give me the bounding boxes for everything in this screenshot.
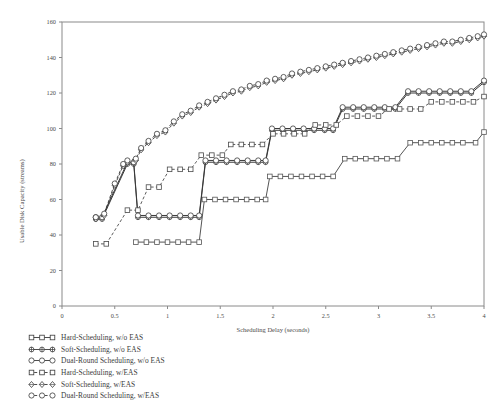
data-point-marker — [139, 145, 144, 150]
legend-item[interactable]: Dual-Round Scheduling, w/EAS — [27, 390, 287, 402]
data-point-marker — [39, 393, 44, 398]
data-point-marker — [299, 174, 304, 179]
data-point-marker — [315, 66, 320, 71]
data-point-marker — [301, 126, 306, 131]
data-point-marker — [220, 153, 225, 158]
series-line — [96, 97, 484, 244]
data-point-marker — [424, 42, 429, 47]
data-point-marker — [167, 167, 172, 172]
data-point-marker — [247, 83, 252, 88]
y-axis-tick-label: 20 — [50, 267, 56, 274]
data-point-marker — [345, 114, 350, 119]
data-point-marker — [213, 197, 218, 202]
data-point-marker — [450, 100, 455, 105]
data-point-marker — [244, 197, 249, 202]
data-point-marker — [188, 167, 193, 172]
data-point-marker — [50, 370, 55, 375]
data-point-marker — [222, 92, 227, 97]
data-point-marker — [186, 240, 191, 245]
data-point-marker — [263, 158, 268, 163]
legend-item-label: Dual-Round Scheduling, w/EAS — [57, 391, 159, 400]
data-point-marker — [197, 103, 202, 108]
data-point-marker — [471, 100, 476, 105]
data-point-marker — [93, 242, 98, 247]
data-point-marker — [268, 174, 273, 179]
data-point-marker — [271, 132, 276, 137]
y-axis-title: Usable Disk Capacity (streams) — [8, 95, 20, 245]
legend-item-label: Dual-Round Scheduling, w/o EAS — [57, 356, 165, 365]
data-point-marker — [290, 126, 295, 131]
x-axis-tick-label: 1 — [166, 312, 169, 319]
data-point-marker — [273, 76, 278, 81]
legend-item[interactable]: Soft-Scheduling, w/o EAS — [27, 344, 287, 356]
data-point-marker — [364, 156, 369, 161]
data-point-marker — [229, 142, 234, 147]
chart-series — [134, 130, 487, 245]
data-point-marker — [40, 370, 45, 375]
data-point-marker — [50, 335, 55, 340]
data-point-marker — [264, 78, 269, 83]
data-point-marker — [382, 51, 387, 56]
data-point-marker — [306, 67, 311, 72]
legend-item-label: Soft-Scheduling, w/o EAS — [57, 345, 141, 354]
data-point-marker — [387, 107, 392, 112]
data-point-marker — [278, 174, 283, 179]
data-point-marker — [385, 156, 390, 161]
data-point-marker — [374, 156, 379, 161]
legend-item[interactable]: Dual-Round Scheduling, w/o EAS — [27, 355, 287, 367]
legend-item-label: Soft-Scheduling, w/EAS — [57, 380, 135, 389]
data-point-marker — [203, 158, 208, 163]
data-point-marker — [440, 140, 445, 145]
data-point-marker — [399, 48, 404, 53]
data-point-marker — [395, 156, 400, 161]
data-point-marker — [351, 105, 356, 110]
data-point-marker — [178, 213, 183, 218]
data-point-marker — [146, 185, 151, 190]
data-point-marker — [348, 58, 353, 63]
data-point-marker — [50, 393, 55, 398]
data-point-marker — [437, 89, 442, 94]
legend-marker-diamond-icon — [27, 379, 57, 390]
chart-series — [93, 80, 486, 222]
data-point-marker — [39, 358, 44, 363]
data-point-marker — [134, 240, 139, 245]
data-point-marker — [40, 335, 45, 340]
data-point-marker — [146, 213, 151, 218]
data-point-marker — [289, 174, 294, 179]
y-axis-tick-label: 160 — [47, 18, 56, 25]
data-point-marker — [255, 197, 260, 202]
data-point-marker — [408, 140, 413, 145]
data-point-marker — [157, 185, 162, 190]
data-point-marker — [292, 132, 297, 137]
data-point-marker — [323, 64, 328, 69]
legend-item[interactable]: Hard-Scheduling, w/EAS — [27, 367, 287, 379]
data-point-marker — [213, 96, 218, 101]
y-axis-tick-label: 0 — [53, 302, 56, 309]
data-point-marker — [163, 128, 168, 133]
legend-marker-dot-plus-icon — [27, 344, 57, 355]
data-point-marker — [234, 197, 239, 202]
data-point-marker — [482, 130, 487, 135]
data-point-marker — [473, 140, 478, 145]
chart-series — [93, 94, 486, 246]
data-point-marker — [230, 89, 235, 94]
data-point-marker — [298, 69, 303, 74]
data-point-marker — [256, 158, 261, 163]
series-line — [136, 132, 484, 242]
x-axis-tick-label: 0.5 — [111, 312, 119, 319]
data-point-marker — [469, 89, 474, 94]
y-axis-title-text: Usable Disk Capacity (streams) — [18, 159, 25, 243]
data-point-marker — [374, 53, 379, 58]
data-point-marker — [176, 240, 181, 245]
chart-series — [93, 33, 486, 222]
legend-item[interactable]: Hard-Scheduling, w/o EAS — [27, 332, 287, 344]
y-axis-tick-label: 100 — [47, 125, 56, 132]
legend-item[interactable]: Soft-Scheduling, w/EAS — [27, 378, 287, 390]
legend-item-label: Hard-Scheduling, w/EAS — [57, 368, 138, 377]
data-point-marker — [475, 34, 480, 39]
data-point-marker — [180, 112, 185, 117]
data-point-marker — [355, 114, 360, 119]
data-point-marker — [281, 74, 286, 79]
data-point-marker — [155, 240, 160, 245]
data-point-marker — [239, 87, 244, 92]
